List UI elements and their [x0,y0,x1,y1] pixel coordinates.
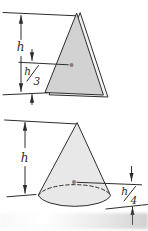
bottom-figure-cone [5,120,148,225]
cone-base-extension-line-right [106,205,148,210]
cone-fraction-numerator: h [121,185,128,197]
plate-front-face [45,14,103,96]
cone-fraction-denominator: 4 [130,194,138,206]
centroid-figure: h h 3 h h 4 [0,0,148,231]
cone-height-label: h [21,151,29,165]
cone-base-extension-line-left [7,195,36,197]
top-base-extension-line [3,93,48,95]
diagram-canvas: h h 3 h h 4 [0,0,148,231]
top-centroid-dot [70,63,74,67]
top-fraction-denominator: 3 [34,75,41,87]
top-figure-triangular-plate [3,13,108,105]
cone-apex-extension-line [5,120,78,124]
top-height-label: h [17,40,25,54]
cone-centroid-dot [72,180,76,184]
cone-body [39,123,111,206]
top-fraction-numerator: h [24,65,31,77]
top-apex-extension-line [3,13,77,16]
